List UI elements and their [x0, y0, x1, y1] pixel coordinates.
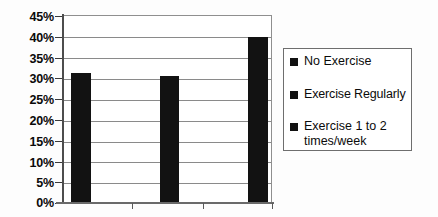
legend-label-line-1: Exercise 1 to 2	[304, 119, 387, 133]
gridline-35	[63, 58, 271, 59]
y-axis-label-45: 45%	[2, 10, 54, 24]
legend-swatch-icon	[290, 123, 298, 131]
chart-screenshot: 45% 40% 35% 30% 25% 20% 15% 10% 5% 0%	[0, 0, 438, 217]
chart-legend: No Exercise Exercise Regularly Exercise …	[283, 48, 412, 151]
legend-item-exercise-regularly: Exercise Regularly	[290, 87, 406, 102]
y-axis-line	[62, 14, 64, 204]
y-axis-label-20: 20%	[2, 114, 54, 128]
y-axis-labels: 45% 40% 35% 30% 25% 20% 15% 10% 5% 0%	[0, 0, 54, 217]
gridline-40	[63, 37, 271, 38]
x-axis-line	[56, 202, 274, 204]
y-axis-label-35: 35%	[2, 52, 54, 66]
legend-label: Exercise Regularly	[304, 87, 406, 102]
bar-exercise-regularly	[160, 76, 179, 202]
y-axis-label-25: 25%	[2, 93, 54, 107]
legend-label: No Exercise	[304, 54, 371, 69]
x-axis-tick-1	[132, 203, 133, 209]
x-axis-tick-3	[272, 203, 273, 209]
legend-label-line-2: times/week	[304, 134, 367, 148]
bar-no-exercise	[71, 73, 91, 202]
bar-exercise-1-to-2-times-week	[248, 37, 268, 202]
y-axis-label-15: 15%	[2, 135, 54, 149]
x-axis-tick-2	[203, 203, 204, 209]
legend-label: Exercise 1 to 2 times/week	[304, 119, 409, 149]
y-axis-label-5: 5%	[2, 176, 54, 190]
legend-swatch-icon	[290, 91, 298, 99]
y-axis-label-10: 10%	[2, 156, 54, 170]
y-axis-label-40: 40%	[2, 31, 54, 45]
legend-item-exercise-1-to-2-times-week: Exercise 1 to 2 times/week	[290, 119, 409, 149]
legend-swatch-icon	[290, 58, 298, 66]
y-axis-label-30: 30%	[2, 72, 54, 86]
plot-area	[62, 15, 272, 203]
y-axis-label-0: 0%	[2, 196, 54, 210]
legend-item-no-exercise: No Exercise	[290, 54, 371, 69]
